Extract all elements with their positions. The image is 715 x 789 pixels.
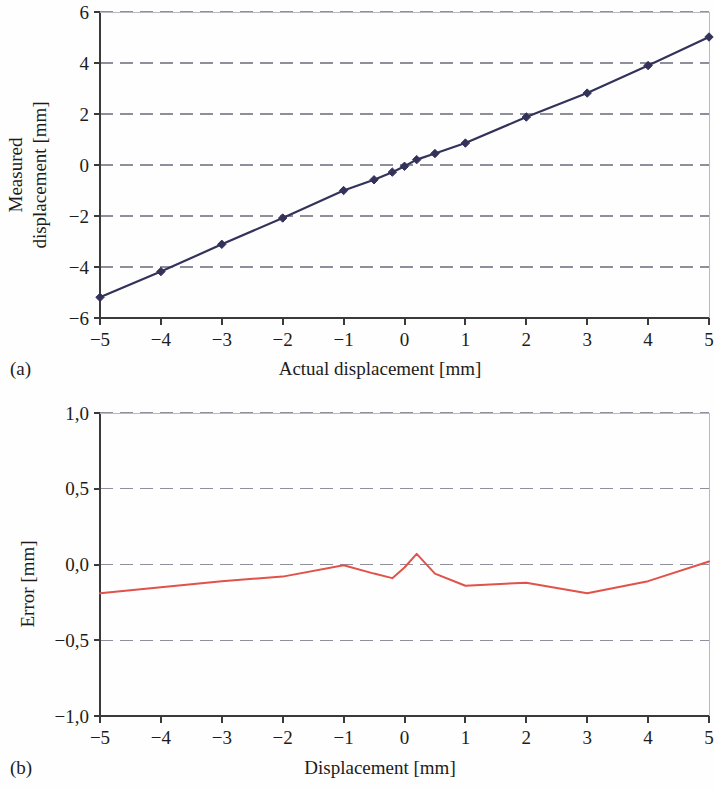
chart-a-ytick-label: 6 [80,2,90,23]
chart-b-container: Error [mm] Displacement [mm] (b) −1,0−0,… [0,394,715,789]
chart-b-series-line [100,554,709,593]
chart-a-ytick-label: −2 [69,206,89,227]
chart-b-xlabel: Displacement [mm] [304,757,455,778]
chart-a-xtick-label: 3 [582,329,592,350]
chart-a-ytick-label: 4 [80,53,90,74]
chart-a-container: Measured displacement [mm] Actual displa… [0,0,715,395]
chart-b-xtick-label: −2 [273,727,293,748]
chart-b-xtick-label: 1 [461,727,471,748]
chart-a-ytick-label: 2 [80,104,90,125]
chart-a-xtick-label: −3 [212,329,232,350]
data-point-marker [388,168,396,176]
chart-a-xtick-label: 2 [522,329,532,350]
chart-a-xtick-label: −4 [151,329,172,350]
chart-b-ytick-label: −1,0 [55,706,89,727]
chart-a-xtick-label: −1 [333,329,353,350]
chart-a-ytick-label: 0 [80,155,90,176]
data-point-marker [218,240,226,248]
chart-a-panel-label: (a) [10,358,31,380]
chart-a-data-markers [96,33,713,302]
chart-b-gridlines [100,413,709,640]
chart-b-xtick-label: −1 [333,727,353,748]
chart-a-ylabel-line1: Measured [5,137,26,212]
chart-a-ylabel-line2: displacement [mm] [29,101,50,248]
chart-b-ytick-label: 0,5 [65,478,89,499]
data-point-marker [279,214,287,222]
chart-b-ytick-label: 1,0 [65,403,89,424]
figure-page: Measured displacement [mm] Actual displa… [0,0,715,789]
chart-b-xtick-label: 5 [704,727,714,748]
chart-a-xtick-label: 4 [643,329,653,350]
chart-b-ylabel-line1: Error [mm] [17,540,38,627]
chart-a-gridlines [100,12,709,267]
chart-b-svg: Error [mm] Displacement [mm] (b) −1,0−0,… [0,394,715,789]
data-point-marker [412,155,420,163]
chart-b-xtick-label: −3 [212,727,232,748]
data-point-marker [339,186,347,194]
chart-b-xtick-label: 4 [643,727,653,748]
chart-a-xtick-label: 0 [400,329,410,350]
chart-b-xtick-label: 2 [522,727,532,748]
chart-a-xtick-label: 1 [461,329,471,350]
chart-b-ytick-label: 0,0 [65,554,89,575]
chart-a-xtick-label: 5 [704,329,714,350]
chart-a-ytick-label: −6 [69,308,89,329]
data-point-marker [157,267,165,275]
chart-b-xtick-label: 0 [400,727,410,748]
chart-b-panel-label: (b) [10,757,32,779]
chart-b-xtick-label: 3 [582,727,592,748]
chart-a-ytick-label: −4 [69,257,90,278]
chart-a-xlabel: Actual displacement [mm] [279,358,482,379]
data-point-marker [705,33,713,41]
data-point-marker [583,89,591,97]
data-point-marker [400,162,408,170]
chart-b-xtick-label: −5 [90,727,110,748]
chart-b-ytick-label: −0,5 [55,630,89,651]
chart-b-ticks [94,413,709,723]
chart-b-xtick-label: −4 [151,727,172,748]
chart-a-svg: Measured displacement [mm] Actual displa… [0,0,715,395]
data-point-marker [96,293,104,301]
data-point-marker [461,139,469,147]
data-point-marker [431,149,439,157]
chart-a-xtick-label: −5 [90,329,110,350]
chart-a-xtick-label: −2 [273,329,293,350]
data-point-marker [370,176,378,184]
